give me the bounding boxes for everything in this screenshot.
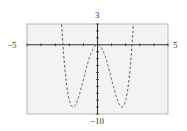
- xmax-label: 5: [173, 41, 178, 50]
- ymin-label: −10: [90, 117, 104, 126]
- xmin-label: −5: [7, 41, 17, 50]
- ymax-label: 3: [95, 11, 100, 20]
- graph: [0, 0, 187, 131]
